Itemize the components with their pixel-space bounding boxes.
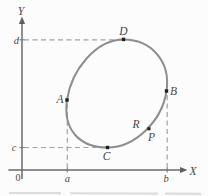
point-label-A: A (55, 93, 64, 105)
tick-label-a: a (65, 173, 70, 184)
point-label-B: B (170, 85, 177, 97)
tick-label-c: c (12, 142, 17, 153)
tick-label-d: d (14, 35, 20, 46)
y-axis-label: Y (18, 5, 26, 17)
point-label-D: D (118, 25, 128, 37)
y-axis-arrow-icon (19, 17, 25, 25)
scan-shadow-line (9, 193, 201, 194)
x-axis-label: X (189, 165, 198, 177)
point-label-C: C (103, 150, 111, 162)
tick-label-b: b (163, 173, 168, 184)
point-dot-D (122, 38, 125, 41)
origin-label: 0 (16, 172, 21, 183)
region-label-R: R (131, 118, 139, 130)
point-dot-B (165, 89, 168, 92)
math-figure: Y X 0 a b c d A B C D R P (0, 0, 208, 196)
x-axis-arrow-icon (180, 167, 188, 173)
point-dot-A (65, 98, 68, 101)
diagram-canvas: Y X 0 a b c d A B C D R P (0, 0, 208, 196)
point-label-P: P (147, 131, 155, 143)
